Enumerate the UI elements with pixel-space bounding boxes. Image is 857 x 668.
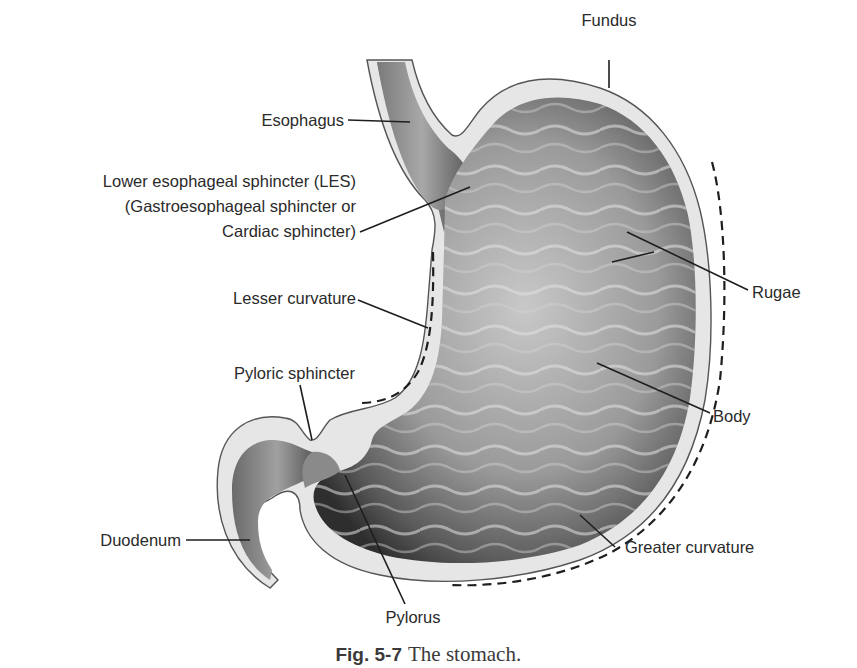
label-pyloric-sphincter: Pyloric sphincter [234, 364, 356, 382]
label-lesser-curvature: Lesser curvature [233, 289, 356, 307]
label-body: Body [713, 407, 751, 425]
label-les-line2: (Gastroesophageal sphincter or [125, 197, 357, 215]
label-duodenum: Duodenum [100, 531, 181, 549]
label-esophagus: Esophagus [261, 111, 344, 129]
leader-lesser-curvature [358, 300, 428, 328]
figure-caption: Fig. 5-7 The stomach. [335, 642, 521, 666]
label-pylorus: Pylorus [385, 608, 440, 626]
stomach-diagram: Fundus Esophagus Lower esophageal sphinc… [0, 0, 857, 668]
label-greater-curvature: Greater curvature [625, 538, 754, 556]
label-les-line3: Cardiac sphincter) [222, 222, 356, 240]
label-fundus: Fundus [581, 11, 636, 29]
label-les-line1: Lower esophageal sphincter (LES) [103, 172, 356, 190]
caption-text: The stomach. [408, 642, 521, 666]
caption-number: Fig. 5-7 [335, 644, 402, 665]
label-rugae: Rugae [752, 283, 801, 301]
